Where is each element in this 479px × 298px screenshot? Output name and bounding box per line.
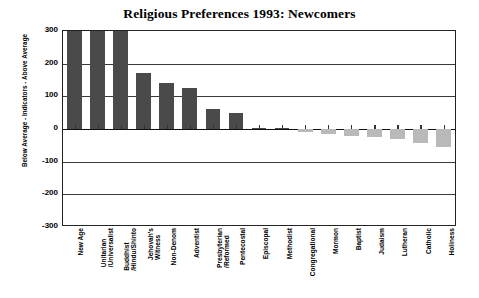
x-axis-category-label: Non-Denom (170, 228, 177, 265)
bar (298, 129, 313, 132)
bar-cell (109, 31, 132, 225)
x-axis-category-label: Baptist (355, 228, 362, 250)
x-label-cell: Episcopal (247, 228, 270, 298)
x-label-cell: Pentecostal (224, 228, 247, 298)
bar-cell (363, 31, 386, 225)
bar (67, 31, 82, 129)
y-axis-tick-label: 300 (18, 26, 58, 34)
x-axis-tick (75, 125, 76, 129)
x-label-cell: New Age (62, 228, 85, 298)
x-label-cell: Congregational (294, 228, 317, 298)
x-axis-tick (190, 125, 191, 129)
x-label-cell: Adventist (178, 228, 201, 298)
bar (367, 129, 382, 137)
y-axis-tick-label: -100 (18, 157, 58, 165)
x-axis-category-label: Holiness (448, 228, 455, 255)
y-axis-tick-label: 100 (18, 91, 58, 99)
x-label-cell: Mormon (317, 228, 340, 298)
x-axis-tick (420, 125, 421, 129)
y-axis-tick-label: -200 (18, 189, 58, 197)
x-axis-category-label: New Age (77, 228, 84, 256)
bar-cell (63, 31, 86, 225)
x-label-cell: Baptist (340, 228, 363, 298)
bar (413, 129, 428, 143)
bar-cell (178, 31, 201, 225)
bar (390, 129, 405, 139)
x-label-cell: Jehovah's Witness (132, 228, 155, 298)
x-axis-tick (282, 125, 283, 129)
bar-cell (201, 31, 224, 225)
bar-cell (386, 31, 409, 225)
chart-container: Religious Preferences 1993: Newcomers Be… (0, 0, 479, 298)
bar-cell (86, 31, 109, 225)
x-label-cell: Unitarian /Universalist (85, 228, 108, 298)
x-axis-tick (121, 125, 122, 129)
chart-title: Religious Preferences 1993: Newcomers (0, 6, 479, 22)
bar-cell (132, 31, 155, 225)
y-axis-tick-label: -300 (18, 222, 58, 230)
bar-cell (340, 31, 363, 225)
bar (436, 129, 451, 147)
bar (136, 73, 151, 129)
x-axis-category-label: Methodist (286, 228, 293, 259)
x-label-cell: Judaism (363, 228, 386, 298)
x-axis-category-label: Judaism (378, 228, 385, 255)
bar-cell (224, 31, 247, 225)
x-axis-category-label: Lutheran (401, 228, 408, 256)
x-axis-tick (236, 125, 237, 129)
x-axis-category-label: Catholic (425, 228, 432, 254)
x-label-cell: Methodist (271, 228, 294, 298)
x-axis-tick (374, 125, 375, 129)
y-axis-tick-label: 200 (18, 59, 58, 67)
bar (344, 129, 359, 136)
x-axis-category-labels: New AgeUnitarian /UniversalistBuddhist /… (62, 228, 456, 298)
bar (182, 88, 197, 129)
plot-area (62, 30, 456, 226)
x-axis-tick (213, 125, 214, 129)
x-label-cell: Holiness (433, 228, 456, 298)
x-label-cell: Lutheran (386, 228, 409, 298)
x-label-cell: Buddhist /Hindu/Shinto (108, 228, 131, 298)
x-axis-category-label: Mormon (332, 228, 339, 254)
x-axis-tick (351, 125, 352, 129)
bar-cell (294, 31, 317, 225)
bar (113, 31, 128, 129)
y-axis-tick-label: 0 (18, 124, 58, 132)
x-axis-tick (305, 125, 306, 129)
bar (321, 129, 336, 134)
x-axis-tick (167, 125, 168, 129)
x-axis-category-label: Pentecostal (239, 228, 246, 265)
bar (159, 83, 174, 129)
bar-series (63, 31, 455, 225)
x-axis-category-label: Congregational (309, 228, 316, 276)
x-axis-tick (444, 125, 445, 129)
bar-cell (271, 31, 294, 225)
x-label-cell: Presbyterian /Reformed (201, 228, 224, 298)
x-axis-tick (98, 125, 99, 129)
bar (90, 31, 105, 129)
x-label-cell: Catholic (410, 228, 433, 298)
x-axis-tick (328, 125, 329, 129)
bar-cell (248, 31, 271, 225)
x-label-cell: Non-Denom (155, 228, 178, 298)
x-axis-tick (259, 125, 260, 129)
x-axis-tick (397, 125, 398, 129)
bar-cell (317, 31, 340, 225)
x-axis-category-label: Episcopal (262, 228, 269, 259)
bar-cell (155, 31, 178, 225)
bar-cell (409, 31, 432, 225)
y-axis-tick-labels: 3002001000-100-200-300 (16, 0, 58, 298)
x-axis-tick (144, 125, 145, 129)
bar-cell (432, 31, 455, 225)
x-axis-category-label: Adventist (193, 228, 200, 258)
